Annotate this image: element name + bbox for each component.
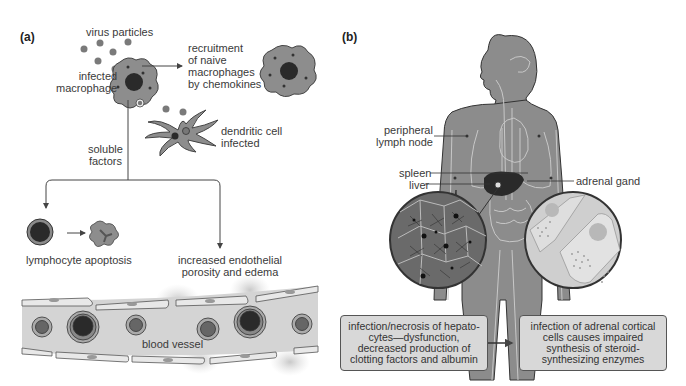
blood-vessel-label: blood vessel bbox=[142, 338, 203, 350]
soluble-factors-label: soluble factors bbox=[88, 143, 123, 167]
panel-b-label: (b) bbox=[342, 30, 357, 44]
adrenal-tissue-magnified-icon bbox=[525, 192, 621, 288]
recruitment-label: recruitment of naive macrophages by chem… bbox=[188, 42, 261, 90]
endothelial-porosity-label: increased endothelial porosity and edema bbox=[178, 254, 282, 278]
dendritic-cell-label: dendritic cell infected bbox=[221, 125, 282, 149]
naive-macrophage-icon bbox=[260, 45, 316, 96]
liver-label: liver bbox=[409, 179, 429, 191]
apoptotic-cell-icon bbox=[89, 221, 118, 247]
infected-macrophage-icon bbox=[110, 58, 158, 108]
liver-effect-box: infection/necrosis of hepato-cytes—dysfu… bbox=[340, 315, 488, 371]
spleen-label: spleen bbox=[399, 167, 431, 179]
adrenal-effect-box: infection of adrenal cortical cells caus… bbox=[519, 315, 667, 371]
virus-particles-label: virus particles bbox=[86, 26, 153, 38]
dendritic-cell-icon bbox=[145, 110, 218, 156]
blood-vessel-icon bbox=[22, 274, 318, 376]
adrenal-gland-label: adrenal gand bbox=[576, 175, 640, 187]
peripheral-lymph-node-label: peripheral lymph node bbox=[376, 124, 433, 148]
lymphocyte-apoptosis-label: lymphocyte apoptosis bbox=[26, 254, 132, 266]
liver-tissue-magnified-icon bbox=[390, 192, 486, 288]
lymphocyte-icon bbox=[27, 219, 53, 245]
infected-macrophage-label: infected macrophage bbox=[56, 70, 117, 94]
